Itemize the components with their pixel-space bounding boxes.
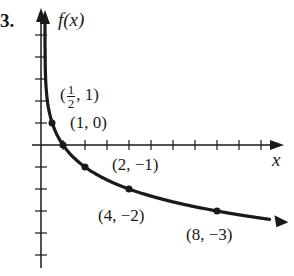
y-axis-label: f(x) — [58, 10, 84, 29]
x-axis-label: x — [272, 150, 280, 169]
point-label-8: (8, −3) — [186, 226, 232, 243]
point-label-2: (2, −1) — [112, 156, 158, 173]
data-point — [49, 120, 56, 127]
point-label-4: (4, −2) — [98, 207, 144, 224]
graph — [0, 0, 294, 276]
data-point — [82, 164, 89, 171]
point-label-1: (1, 0) — [70, 114, 107, 131]
data-point — [214, 208, 221, 215]
point-label-half: (12, 1) — [60, 83, 99, 110]
data-point — [126, 186, 133, 193]
curve-arrow-icon — [274, 215, 288, 227]
data-point — [60, 142, 67, 149]
problem-number: 3. — [0, 11, 14, 30]
